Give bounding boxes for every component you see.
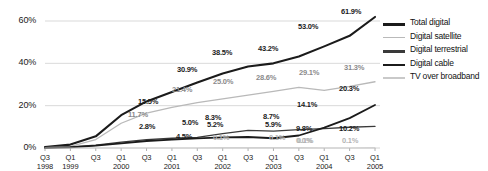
chart-legend: Total digitalDigital satelliteDigital te… bbox=[383, 18, 488, 86]
data-point-label: 20.3% bbox=[339, 84, 359, 93]
x-tick-year: 2005 bbox=[360, 162, 390, 171]
legend-color-swatch bbox=[383, 64, 405, 67]
data-point-label: 25.0% bbox=[213, 77, 233, 86]
line-chart: 0%20%40%60% Q31998Q11999Q3Q12000Q3Q12001… bbox=[0, 0, 488, 171]
data-point-label: 28.6% bbox=[256, 73, 276, 82]
legend-item[interactable]: Total digital bbox=[383, 18, 488, 28]
x-tick-quarter: Q1 bbox=[370, 153, 380, 162]
data-point-label: 61.9% bbox=[341, 7, 361, 16]
x-tick-quarter: Q3 bbox=[294, 153, 304, 162]
data-point-label: 15.5% bbox=[138, 97, 158, 106]
x-tick-quarter: Q3 bbox=[192, 153, 202, 162]
x-tick-year: 1999 bbox=[55, 162, 85, 171]
data-point-label: 29.1% bbox=[299, 68, 319, 77]
data-point-label: 0.1% bbox=[269, 133, 285, 142]
data-point-label: 4.5% bbox=[176, 132, 192, 141]
legend-item-label: Digital satellite bbox=[410, 32, 461, 42]
data-point-label: 43.2% bbox=[258, 44, 278, 53]
data-point-label: 30.9% bbox=[177, 65, 197, 74]
data-point-label: 53.0% bbox=[298, 22, 318, 31]
x-tick-quarter: Q3 bbox=[345, 153, 355, 162]
data-point-label: 14.1% bbox=[297, 100, 317, 109]
legend-item-label: Digital cable bbox=[410, 59, 454, 69]
x-tick-quarter: Q3 bbox=[142, 153, 152, 162]
data-point-label: 0.1% bbox=[213, 133, 229, 142]
legend-item[interactable]: Digital terrestrial bbox=[383, 45, 488, 55]
data-point-label: 38.5% bbox=[212, 48, 232, 57]
data-point-label: 0.0% bbox=[296, 136, 312, 145]
legend-item-label: Total digital bbox=[410, 18, 450, 28]
data-point-label: 5.2% bbox=[207, 120, 223, 129]
y-axis-tick-label: 20% bbox=[2, 100, 36, 110]
x-tick-year: 2003 bbox=[258, 162, 288, 171]
x-tick-quarter: Q1 bbox=[319, 153, 329, 162]
data-point-label: 0.1% bbox=[342, 136, 358, 145]
x-tick-quarter: Q1 bbox=[65, 153, 75, 162]
data-point-label: 9.8% bbox=[296, 124, 312, 133]
legend-item[interactable]: Digital satellite bbox=[383, 32, 488, 42]
data-point-label: 2.8% bbox=[139, 122, 155, 131]
data-point-label: 11.7% bbox=[128, 110, 148, 119]
x-tick-quarter: Q3 bbox=[243, 153, 253, 162]
x-tick-year: 2000 bbox=[106, 162, 136, 171]
legend-color-swatch bbox=[383, 77, 405, 79]
data-point-label: 31.3% bbox=[344, 63, 364, 72]
y-axis-tick-label: 60% bbox=[2, 15, 36, 25]
x-tick-year: 2004 bbox=[309, 162, 339, 171]
legend-item[interactable]: Digital cable bbox=[383, 59, 488, 69]
x-tick-year: 2002 bbox=[208, 162, 238, 171]
legend-item[interactable]: TV over broadband bbox=[383, 72, 488, 82]
data-point-label: 5.9% bbox=[265, 120, 281, 129]
x-tick-quarter: Q1 bbox=[167, 153, 177, 162]
legend-color-swatch bbox=[383, 23, 405, 26]
data-point-label: 10.2% bbox=[339, 124, 359, 133]
legend-item-label: Digital terrestrial bbox=[410, 45, 468, 55]
y-axis-tick-label: 40% bbox=[2, 57, 36, 67]
x-tick-quarter: Q1 bbox=[218, 153, 228, 162]
data-point-label: 5.0% bbox=[182, 118, 198, 127]
legend-color-swatch bbox=[383, 37, 405, 39]
x-axis-tick-label: Q12005 bbox=[360, 153, 390, 171]
x-tick-quarter: Q3 bbox=[91, 153, 101, 162]
x-tick-quarter: Q1 bbox=[116, 153, 126, 162]
legend-item-label: TV over broadband bbox=[410, 72, 479, 82]
x-tick-quarter: Q3 bbox=[40, 153, 50, 162]
data-point-label: 21.4% bbox=[172, 85, 192, 94]
legend-color-swatch bbox=[383, 50, 405, 53]
y-axis-tick-label: 0% bbox=[2, 142, 36, 152]
x-tick-quarter: Q1 bbox=[269, 153, 279, 162]
x-tick-year: 2001 bbox=[157, 162, 187, 171]
